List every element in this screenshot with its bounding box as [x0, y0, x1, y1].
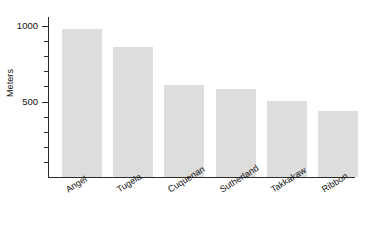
bar: [62, 29, 102, 177]
y-axis-tick-label: 1000: [4, 20, 38, 31]
bar: [164, 85, 204, 177]
y-axis-tick-label: 500: [4, 96, 38, 107]
bar: [318, 111, 358, 177]
x-axis-line: [48, 177, 355, 178]
bar: [216, 89, 256, 177]
bar-chart: Meters 5001000 AngelTugelaCuquenanSuther…: [0, 0, 367, 242]
plot-area: [48, 17, 355, 177]
bar: [113, 47, 153, 177]
